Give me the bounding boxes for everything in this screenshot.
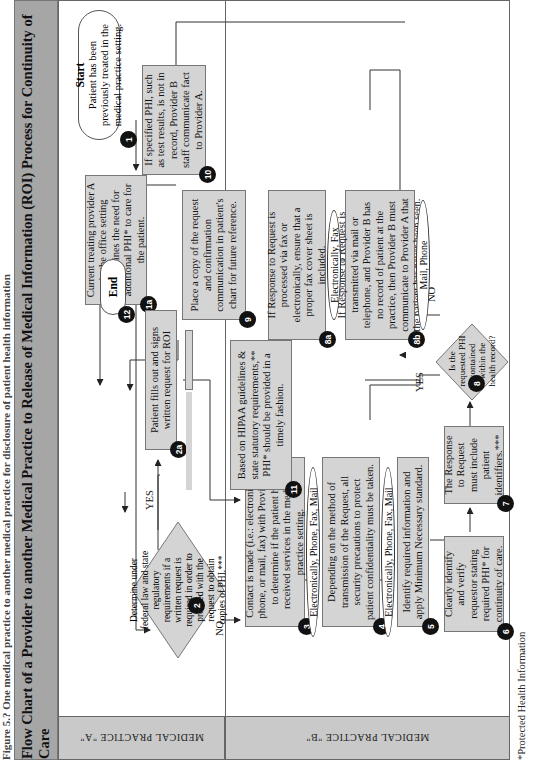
step-2a-text: Patient fills out and signs written requ… (149, 317, 174, 443)
start-text: Patient has been previously treated in t… (87, 21, 125, 129)
flowchart-page: Figure 5.? One medical practice to anoth… (0, 0, 555, 760)
step-badge-6: 6 (497, 623, 514, 640)
step-10-text: If specified PHI, such as test results, … (143, 72, 206, 168)
spacer-4 (186, 392, 192, 490)
step-badge-2a: 2a (170, 441, 187, 458)
step-badge-2: 2 (188, 597, 205, 614)
start-terminal: Start Patient has been previously treate… (78, 10, 120, 140)
step-5-text: Identify required information and apply … (401, 464, 426, 620)
step-badge-5: 5 (422, 618, 439, 635)
channel-oval-3: Electronically, Phone, Fax, Mail (306, 467, 320, 637)
step-2a-box: Patient fills out and signs written requ… (145, 310, 177, 450)
edge-label-yes-8: YES (414, 372, 425, 392)
step-8a-box: If Response to Request is processed via … (268, 190, 326, 340)
step-4-box: Depending on the method of transmission … (322, 457, 380, 627)
end-text: End (107, 277, 120, 297)
step-7-box: The Response to Request must include pat… (444, 426, 504, 504)
step-badge-11: 11 (285, 481, 302, 498)
step-11-box: Based on HIPAA guidelines & state statut… (230, 340, 292, 490)
step-8a-text: If Response to Request is processed via … (266, 197, 329, 333)
step-badge-7: 7 (497, 495, 514, 512)
channel-oval-4: Electronically, Phone, Fax, Mail (381, 467, 395, 637)
step-8b-box: If Response to Request is transmitted vi… (345, 190, 415, 340)
step-badge-8: 8 (468, 375, 485, 392)
step-9-box: Place a copy of the request and confirma… (182, 190, 246, 320)
step-badge-12: 12 (118, 306, 135, 323)
step-badge-1: 1 (120, 131, 137, 148)
step-6-text: Clearly identify and verify requestor st… (443, 543, 506, 625)
step-badge-9: 9 (239, 311, 256, 328)
step-9-text: Place a copy of the request and confirma… (189, 197, 239, 313)
channel-oval-8a: Electronically, Fax (327, 210, 341, 320)
step-badge-10: 10 (199, 166, 216, 183)
channel-oval-8b: Mail, Phone (416, 200, 430, 330)
footnote: *Protected Health Information (516, 632, 527, 760)
edge-label-no-2: NO (214, 621, 225, 636)
edge-label-yes-2: YES (144, 490, 155, 510)
step-11-text: Based on HIPAA guidelines & state statut… (236, 347, 286, 483)
step-6-box: Clearly identify and verify requestor st… (444, 536, 504, 632)
decision-2-text: Determine under federal law and state re… (148, 548, 208, 632)
step-8b-text: If Response to Request is transmitted vi… (336, 197, 424, 333)
step-7-text: The Response to Request must include pat… (443, 433, 506, 497)
step-4-text: Depending on the method of transmission … (326, 464, 376, 620)
step-5-box: Identify required information and apply … (397, 457, 429, 627)
step-badge-8a: 8a (319, 331, 336, 348)
start-title: Start (74, 63, 87, 88)
spacer (185, 330, 193, 390)
step-10-box: If specified PHI, such as test results, … (142, 65, 206, 175)
step-badge-8b: 8b (408, 331, 425, 348)
